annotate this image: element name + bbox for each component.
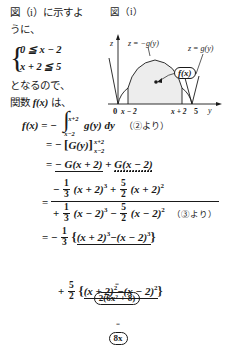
prose-line-3: となるので、 xyxy=(10,77,106,94)
line6-brace-close: } xyxy=(158,283,163,298)
top-plus: + xyxy=(110,183,116,195)
numerator: 5 xyxy=(120,179,127,189)
deriv-line-6: + 5 2 {(x + 2)2−(x − 2)2} xyxy=(0,282,225,300)
fraction-five-halves-b: 5 2 xyxy=(120,203,127,223)
z-axis-label: z xyxy=(109,39,114,48)
numerator: 1 xyxy=(63,203,70,213)
denominator: 2 xyxy=(120,213,127,224)
bottom-expr-1: (x − 2) xyxy=(74,207,105,219)
denominator: 3 xyxy=(63,189,70,200)
inequality-system: { 0 ≦ x − 2 x + 2 ≦ 5 xyxy=(10,40,106,76)
bottom-exp-2: 2 xyxy=(161,206,165,214)
z-axis-arrow xyxy=(116,34,120,40)
integral-symbol: ∫ x+2 x−2 xyxy=(59,116,81,136)
line-label: z = g(y) xyxy=(187,44,214,53)
area-label-box: f(x) xyxy=(174,62,196,80)
denominator: 3 xyxy=(63,213,70,224)
line5-sign: − xyxy=(51,231,57,243)
area-label-text: f(x) xyxy=(174,67,196,79)
top-expr-1: (x + 2) xyxy=(74,183,104,195)
plus-3: + xyxy=(105,158,111,170)
fraction-one-third-b: 1 3 xyxy=(63,203,70,223)
bottom-sign: + xyxy=(53,207,59,219)
fraction-one-third-c: 1 3 xyxy=(61,227,68,247)
numerator: 5 xyxy=(120,203,127,213)
bottom-exp-1: 3 xyxy=(104,206,108,214)
tick-label-left: x − 2 xyxy=(120,107,137,116)
line5-expr-1: (x + 2) xyxy=(77,231,107,243)
system-rows: 0 ≦ x − 2 x + 2 ≦ 5 xyxy=(20,41,62,75)
derivation: f(x) = − ∫ x+2 x−2 g(y) dy （②より） = − [G(… xyxy=(0,116,225,300)
top-expr-2: (x + 2) xyxy=(130,183,160,195)
minus-1: − xyxy=(50,119,56,131)
numerator: 5 xyxy=(68,281,75,291)
inequality-row-2: x + 2 ≦ 5 xyxy=(20,58,62,75)
deriv-line-2: = − [G(y)]x+2x−2 xyxy=(0,138,225,158)
equals-3: = xyxy=(46,158,52,170)
line-label-leader xyxy=(196,54,203,74)
line6-sign: + xyxy=(58,285,64,297)
integrand: g(y) dy xyxy=(84,119,115,131)
antiderivative-G: G(y) xyxy=(68,139,88,151)
curve-label-leader xyxy=(148,47,150,56)
prose-column: 図（i）に示すよ うに、 { 0 ≦ x − 2 x + 2 ≦ 5 となるので… xyxy=(10,4,106,111)
prose-line-4: 関数 f(x) は、 xyxy=(10,94,106,111)
bracket-group: [G(y)]x+2x−2 xyxy=(64,138,106,153)
line6-difference: (x + 2)2−(x − 2)2 xyxy=(84,285,158,299)
reference-3: （③より） xyxy=(172,209,217,219)
deriv-line-5: = − 1 3 {(x + 2)3−(x − 2)3} xyxy=(0,228,225,246)
prose-line-1: 図（i）に示すよ xyxy=(10,4,106,21)
equals-2: = xyxy=(46,138,52,150)
tick-label-right: x + 2 xyxy=(170,107,187,116)
tick-label-five: 5 xyxy=(194,107,198,116)
term-G-x-minus-2: G(x − 2) xyxy=(114,158,152,172)
annotation-box-2: 8x xyxy=(109,332,128,345)
curve-label: z = −g(y) xyxy=(127,39,159,48)
deriv-line-1: f(x) = − ∫ x+2 x−2 g(y) dy （②より） xyxy=(0,116,225,138)
bottom-minus: − xyxy=(110,207,116,219)
y-axis-label: y xyxy=(207,106,212,115)
top-sign: − xyxy=(53,183,59,195)
textbook-page: 図（i）に示すよ うに、 { 0 ≦ x − 2 x + 2 ≦ 5 となるので… xyxy=(0,0,225,345)
annotation-equals-2: = xyxy=(78,322,158,327)
stacked-top-row: − 1 3 (x + 2)3 + 5 2 (x + 2)2 xyxy=(51,180,219,201)
deriv-line-4: = − 1 3 (x + 2)3 + 5 2 (x + 2)2 xyxy=(0,180,225,228)
right-v-left-branch xyxy=(192,76,199,104)
annotation-8x: = 8x xyxy=(78,322,158,345)
bracket-limits: x+2x−2 xyxy=(93,139,106,153)
bottom-expr-2: (x − 2) xyxy=(131,207,162,219)
figure-graph: z y 0 x − 2 x + 2 5 z = −g(y) z = g(y) xyxy=(108,16,225,116)
y-axis-arrow xyxy=(216,102,222,106)
prose-line-4-pre: 関数 xyxy=(10,97,33,108)
stacked-bottom-row: + 1 3 (x − 2)3 − 5 2 (x − 2)2 （③より） xyxy=(51,201,219,224)
denominator: 3 xyxy=(61,237,68,248)
term-neg-G-x-plus-2: − G(x + 2) xyxy=(55,158,102,172)
denominator: 2 xyxy=(120,189,127,200)
line6-expr-1: (x + 2) xyxy=(84,285,114,297)
lhs-fx: f(x) xyxy=(22,119,39,131)
deriv-line-3: = − G(x + 2) + G(x − 2) xyxy=(0,158,225,180)
origin-label: 0 xyxy=(113,106,117,116)
prose-line-2: うに、 xyxy=(10,21,106,38)
minus-2: − xyxy=(55,138,61,150)
numerator: 1 xyxy=(61,227,68,237)
fraction-five-halves-c: 5 2 xyxy=(68,281,75,301)
reference-2: （②より） xyxy=(124,121,169,131)
line5-difference: (x + 2)3−(x − 2)3 xyxy=(77,231,151,245)
bracket-lower-limit: x−2 xyxy=(94,144,104,157)
fraction-five-halves-a: 5 2 xyxy=(120,179,127,199)
equals-4: = xyxy=(42,196,48,208)
line5-expr-2: (x − 2) xyxy=(117,231,148,243)
line5-brace-close: } xyxy=(151,229,156,244)
numerator: 1 xyxy=(63,179,70,189)
fraction-one-third-a: 1 3 xyxy=(63,179,70,199)
equals-1: = xyxy=(41,119,47,131)
top-exp-1: 3 xyxy=(104,182,108,190)
system-brace: { xyxy=(10,40,19,75)
inequality-row-1: 0 ≦ x − 2 xyxy=(20,41,62,58)
left-v-line xyxy=(109,58,118,104)
equals-5: = xyxy=(42,231,48,243)
stacked-expression: − 1 3 (x + 2)3 + 5 2 (x + 2)2 + xyxy=(51,180,219,225)
top-exp-2: 2 xyxy=(161,182,165,190)
integral-upper-limit: x+2 xyxy=(68,112,78,125)
